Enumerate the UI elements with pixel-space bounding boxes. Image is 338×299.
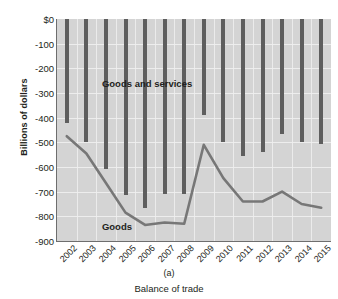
panel-letter: (a) — [0, 268, 338, 278]
plot-area: Goods and servicesGoods — [56, 19, 331, 242]
y-tick-label: $0 — [2, 14, 54, 25]
y-tick-label: -500 — [2, 137, 54, 148]
y-tick-label: -600 — [2, 162, 54, 173]
y-tick-label: -400 — [2, 112, 54, 123]
y-tick-label: -900 — [2, 236, 54, 247]
chart-figure: Billions of dollars $0-100-200-300-400-5… — [0, 0, 338, 299]
y-tick-label: -800 — [2, 211, 54, 222]
x-axis-title: Balance of trade — [0, 283, 338, 294]
y-tick-label: -300 — [2, 88, 54, 99]
series-label: Goods — [102, 221, 132, 232]
series-label: Goods and services — [102, 78, 192, 89]
series-annotations: Goods and servicesGoods — [57, 19, 331, 241]
y-tick-label: -100 — [2, 38, 54, 49]
y-tick-label: -200 — [2, 63, 54, 74]
y-axis-tick-labels: $0-100-200-300-400-500-600-700-800-900 — [0, 0, 54, 299]
y-tick-label: -700 — [2, 186, 54, 197]
